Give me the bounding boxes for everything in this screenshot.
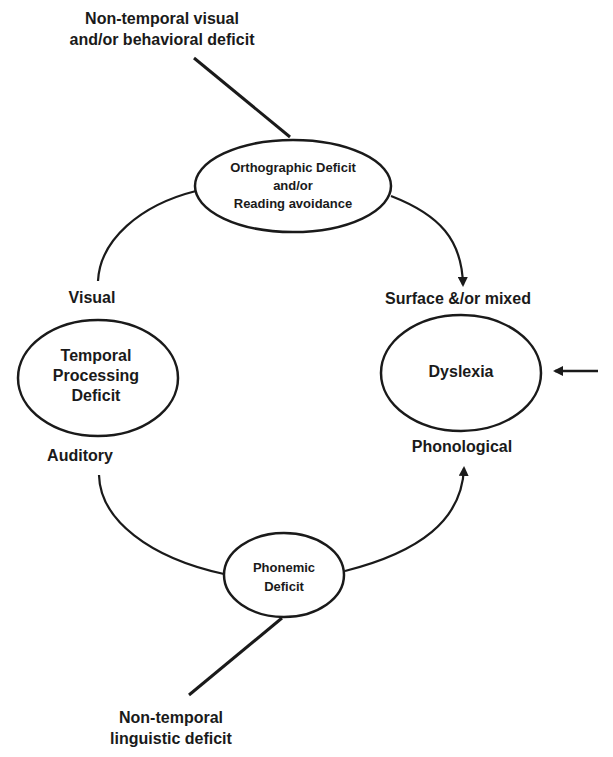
node-dyslexia: Dyslexia	[381, 315, 541, 431]
dyslexia-causal-diagram: Non-temporal visual and/or behavioral de…	[0, 0, 613, 757]
arrow-orthographic-to-dyslexia	[391, 196, 463, 285]
node-orthographic: Orthographic Deficit and/or Reading avoi…	[195, 140, 391, 232]
bottom-input-label-line-1: Non-temporal	[119, 709, 223, 726]
bottom-input-label: Non-temporal linguistic deficit	[110, 709, 232, 747]
edge-label-visual: Visual	[69, 289, 116, 306]
node-orthographic-line-3: Reading avoidance	[234, 196, 352, 211]
node-temporal: Temporal Processing Deficit	[18, 320, 178, 436]
edge-label-phonological: Phonological	[412, 438, 512, 455]
curve-auditory-to-phonemic	[99, 475, 224, 574]
node-temporal-line-2: Processing	[53, 367, 139, 384]
top-input-label: Non-temporal visual and/or behavioral de…	[70, 10, 256, 48]
top-input-connector	[194, 58, 290, 137]
node-phonemic-line-1: Phonemic	[253, 560, 315, 575]
arrow-phonemic-to-dyslexia	[345, 468, 464, 571]
edge-label-auditory: Auditory	[47, 447, 113, 464]
edge-label-surface: Surface &/or mixed	[385, 290, 531, 307]
node-phonemic-ellipse	[224, 533, 344, 617]
node-temporal-line-1: Temporal	[61, 347, 132, 364]
curve-visual-to-orthographic	[98, 191, 196, 281]
node-orthographic-line-2: and/or	[273, 178, 313, 193]
node-phonemic: Phonemic Deficit	[224, 533, 344, 617]
node-phonemic-line-2: Deficit	[264, 579, 304, 594]
node-temporal-line-3: Deficit	[72, 387, 122, 404]
node-orthographic-line-1: Orthographic Deficit	[230, 160, 356, 175]
bottom-input-connector	[189, 618, 282, 695]
top-input-label-line-1: Non-temporal visual	[85, 10, 239, 27]
top-input-label-line-2: and/or behavioral deficit	[70, 31, 256, 48]
bottom-input-label-line-2: linguistic deficit	[110, 730, 232, 747]
node-dyslexia-label: Dyslexia	[429, 363, 494, 380]
